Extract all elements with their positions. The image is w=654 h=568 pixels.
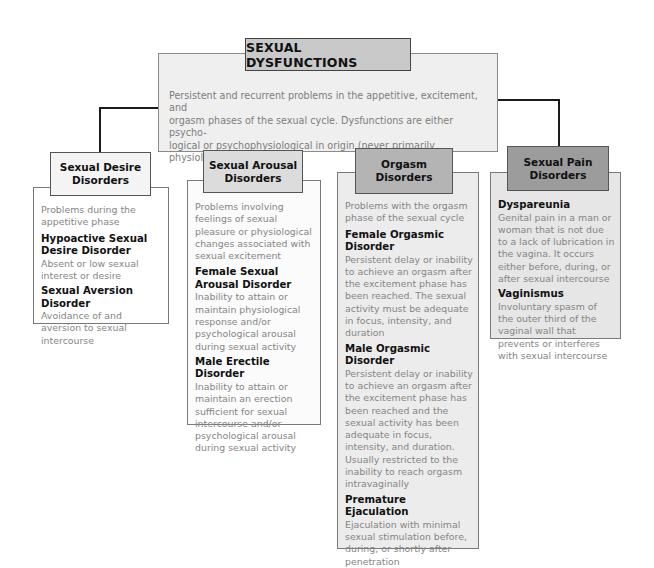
category-header-sexual-pain: Sexual Pain Disorders [507, 146, 609, 191]
category-header-line: Disorders [209, 172, 297, 185]
disorder-definition: Persistent delay or inability to achieve… [345, 368, 473, 491]
disorder-definition: Ejaculation with minimal sexual stimulat… [345, 519, 473, 568]
category-header-line: Disorders [60, 174, 141, 187]
category-body-orgasm: Problems with the orgasm phase of the se… [337, 172, 479, 549]
category-header-sexual-arousal: Sexual Arousal Disorders [203, 150, 303, 193]
disorder-definition: Inability to attain or maintain physiolo… [195, 291, 315, 352]
disorder-name: Vaginismus [498, 288, 615, 301]
disorder-name: Dyspareunia [498, 199, 615, 212]
category-intro: Problems during the appetitive phase [41, 204, 163, 229]
disorder-name: Female Sexual Arousal Disorder [195, 266, 315, 291]
category-header-sexual-desire: Sexual Desire Disorders [50, 152, 151, 196]
category-intro: Problems involving feelings of sexual pl… [195, 201, 315, 262]
disorder-definition: Genital pain in a man or woman that is n… [498, 212, 615, 286]
disorder-name: Male Erectile Disorder [195, 356, 315, 381]
connector-line [558, 99, 560, 147]
category-body-sexual-desire: Problems during the appetitive phase Hyp… [33, 187, 169, 324]
disorder-name: Female Orgasmic Disorder [345, 229, 473, 254]
category-header-orgasm: Orgasm Disorders [355, 148, 453, 194]
disorder-definition: Inability to attain or maintain an erect… [195, 381, 315, 455]
category-intro: Problems with the orgasm phase of the se… [345, 200, 473, 225]
category-header-line: Sexual Arousal [209, 159, 297, 172]
category-header-line: Disorders [524, 169, 593, 182]
disorder-definition: Avoidance of and aversion to sexual inte… [41, 310, 163, 347]
connector-line [497, 99, 559, 101]
category-body-sexual-pain: Dyspareunia Genital pain in a man or wom… [490, 172, 621, 339]
category-header-line: Sexual Pain [524, 156, 593, 169]
description-line: Persistent and recurrent problems in the… [169, 90, 487, 115]
disorder-name: Hypoactive Sexual Desire Disorder [41, 233, 163, 258]
diagram-title: SEXUAL DYSFUNCTIONS [245, 38, 411, 71]
description-line: orgasm phases of the sexual cycle. Dysfu… [169, 115, 487, 140]
disorder-definition: Persistent delay or inability to achieve… [345, 254, 473, 340]
disorder-name: Sexual Aversion Disorder [41, 285, 163, 310]
category-header-line: Orgasm Disorders [356, 158, 452, 184]
diagram-title-text: SEXUAL DYSFUNCTIONS [246, 40, 410, 70]
disorder-definition: Absent or low sexual interest or desire [41, 258, 163, 283]
category-header-line: Sexual Desire [60, 161, 141, 174]
disorder-name: Male Orgasmic Disorder [345, 343, 473, 368]
category-body-sexual-arousal: Problems involving feelings of sexual pl… [187, 180, 321, 425]
connector-line [99, 107, 101, 153]
disorder-name: Premature Ejaculation [345, 494, 473, 519]
connector-line [100, 107, 158, 109]
disorder-definition: Involuntary spasm of the outer third of … [498, 301, 615, 362]
